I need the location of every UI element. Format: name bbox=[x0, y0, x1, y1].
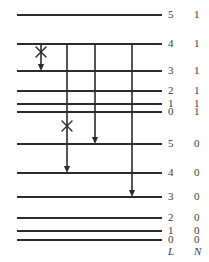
level-label-L-lvl-n1-L2: 2 bbox=[168, 85, 174, 96]
level-label-L-lvl-n0-L0: 0 bbox=[168, 234, 174, 245]
transition-arrows-group bbox=[38, 44, 135, 197]
level-label-L-lvl-n0-L3: 3 bbox=[168, 191, 174, 202]
arrow-head-transition-4to5 bbox=[92, 137, 98, 144]
level-label-N-lvl-n0-L3: 0 bbox=[194, 191, 200, 202]
level-label-L-lvl-n1-L4: 4 bbox=[168, 38, 174, 49]
level-label-N-lvl-n0-L2: 0 bbox=[194, 212, 200, 223]
level-label-L-lvl-n0-L5: 5 bbox=[168, 138, 174, 149]
arrow-head-transition-4to3-lower bbox=[129, 190, 135, 197]
level-label-L-lvl-n1-L3: 3 bbox=[168, 65, 174, 76]
level-label-N-lvl-n0-L0: 0 bbox=[194, 234, 200, 245]
energy-level-diagram: 543210543210 111111000000 L N bbox=[0, 0, 209, 262]
arrow-head-transition-4to4 bbox=[64, 166, 70, 173]
diagram-canvas bbox=[0, 0, 209, 262]
level-label-N-lvl-n1-L2: 1 bbox=[194, 85, 200, 96]
level-label-N-lvl-n0-L4: 0 bbox=[194, 167, 200, 178]
level-label-N-lvl-n1-L4: 1 bbox=[194, 38, 200, 49]
level-label-L-lvl-n0-L4: 4 bbox=[168, 167, 174, 178]
level-label-L-lvl-n1-L0: 0 bbox=[168, 106, 174, 117]
level-label-L-lvl-n1-L5: 5 bbox=[168, 9, 174, 20]
level-label-N-lvl-n1-L5: 1 bbox=[194, 9, 200, 20]
column-header-L: L bbox=[168, 246, 174, 257]
level-label-N-lvl-n1-L3: 1 bbox=[194, 65, 200, 76]
level-label-N-lvl-n1-L0: 1 bbox=[194, 106, 200, 117]
level-label-L-lvl-n0-L2: 2 bbox=[168, 212, 174, 223]
level-label-N-lvl-n0-L5: 0 bbox=[194, 138, 200, 149]
arrow-head-transition-forbidden-4to3 bbox=[38, 64, 44, 71]
level-lines-group bbox=[17, 15, 162, 240]
column-header-N: N bbox=[194, 246, 201, 257]
